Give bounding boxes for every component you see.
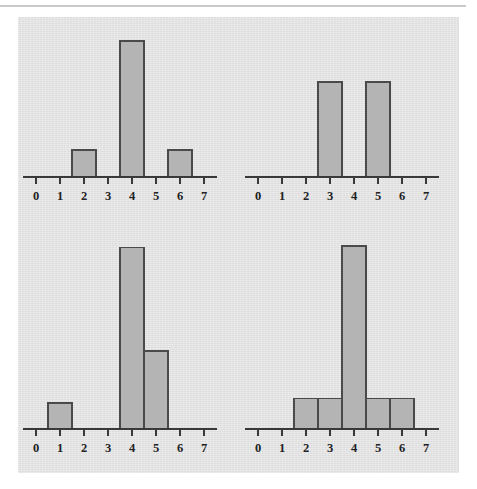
x-axis-tick-label: 0	[255, 441, 261, 455]
x-axis-tick-label: 0	[255, 189, 261, 203]
chart-bottom-left: 01234567	[20, 223, 238, 471]
chart-top-left: 01234567	[20, 19, 238, 219]
x-axis-tick-label: 7	[201, 189, 207, 203]
figure-panel: 01234567 01234567 01234567 01234567	[18, 17, 459, 473]
x-axis-tick-label: 5	[153, 189, 159, 203]
header-divider-rule	[0, 5, 466, 7]
histogram-bar	[72, 150, 96, 177]
x-axis-tick-label: 3	[105, 441, 111, 455]
histogram-bar	[366, 399, 390, 429]
x-axis-tick-label: 2	[303, 189, 309, 203]
chart-bottom-right: 01234567	[242, 223, 458, 471]
x-axis-tick-label: 1	[279, 189, 285, 203]
x-axis-tick-label: 3	[327, 189, 333, 203]
x-axis-tick-label: 2	[81, 441, 87, 455]
x-axis-tick-label: 7	[423, 189, 429, 203]
chart-top-right: 01234567	[242, 19, 458, 219]
x-axis-tick-label: 1	[57, 441, 63, 455]
histogram-bar	[294, 399, 318, 429]
x-axis-tick-label: 5	[375, 189, 381, 203]
histogram-bar	[318, 82, 342, 177]
x-axis-tick-label: 1	[279, 441, 285, 455]
x-axis-tick-label: 2	[81, 189, 87, 203]
histogram-bar	[168, 150, 192, 177]
x-axis-tick-label: 7	[201, 441, 207, 455]
x-axis-tick-label: 4	[129, 441, 136, 455]
figure-root: 01234567 01234567 01234567 01234567	[0, 0, 477, 489]
x-axis-tick-label: 4	[129, 189, 136, 203]
histogram-bar	[390, 399, 414, 429]
histogram-bar	[48, 403, 72, 429]
x-axis-tick-label: 7	[423, 441, 429, 455]
histogram-bar	[366, 82, 390, 177]
x-axis-tick-label: 6	[177, 441, 183, 455]
x-axis-tick-label: 6	[399, 189, 405, 203]
histogram-bar	[342, 246, 366, 429]
x-axis-tick-label: 6	[399, 441, 405, 455]
histogram-bar	[318, 399, 342, 429]
x-axis-tick-label: 6	[177, 189, 183, 203]
x-axis-tick-label: 3	[105, 189, 111, 203]
x-axis-tick-label: 5	[375, 441, 381, 455]
histogram-bar	[120, 247, 144, 429]
histogram-bar	[120, 41, 144, 177]
x-axis-tick-label: 5	[153, 441, 159, 455]
x-axis-tick-label: 0	[33, 189, 39, 203]
x-axis-tick-label: 4	[351, 189, 358, 203]
x-axis-tick-label: 1	[57, 189, 63, 203]
x-axis-tick-label: 3	[327, 441, 333, 455]
x-axis-tick-label: 0	[33, 441, 39, 455]
x-axis-tick-label: 2	[303, 441, 309, 455]
histogram-bar	[144, 351, 168, 429]
x-axis-tick-label: 4	[351, 441, 358, 455]
